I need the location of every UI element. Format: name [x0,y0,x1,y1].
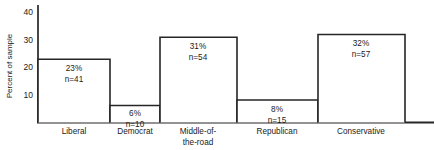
chart-canvas: Percent of sample 40 30 20 10 23% n=41 6… [0,0,435,150]
bar-label-republican-percent: 8% [271,105,283,114]
y-tick-label-20: 20 [24,62,34,72]
bar-label-liberal-count: n=41 [65,75,84,84]
x-category-label-democrat: Democrat [117,127,153,136]
bar-chart-figure: Percent of sample 40 30 20 10 23% n=41 6… [0,0,435,150]
bar-label-conservative-percent: 32% [353,39,369,48]
bar-label-liberal-percent: 23% [66,64,82,73]
x-category-label-conservative: Conservative [337,127,385,136]
x-category-label-republican: Republican [257,127,298,136]
x-category-label-middle-of-the-road-line2: the-road [183,138,214,147]
y-tick-label-40: 40 [24,7,34,17]
x-category-label-middle-of-the-road: Middle-of- [180,127,217,136]
bar-label-democrat-percent: 6% [129,109,141,118]
bar-label-middle-count: n=54 [189,53,208,62]
y-axis-title: Percent of sample [5,33,14,98]
bar-label-conservative-count: n=57 [352,50,371,59]
y-tick-label-10: 10 [24,90,34,100]
bar-label-republican-count: n=15 [268,116,287,125]
x-category-label-liberal: Liberal [62,127,87,136]
bar-label-middle-percent: 31% [190,42,206,51]
y-tick-label-30: 30 [24,35,34,45]
